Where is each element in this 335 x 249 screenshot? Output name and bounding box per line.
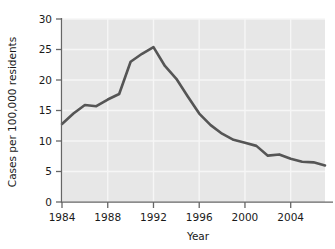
chart-figure: 051015202530 198419881992199620002004 Ca… (0, 0, 335, 249)
line-chart: 051015202530 198419881992199620002004 Ca… (0, 0, 335, 249)
y-tick-label: 15 (39, 104, 52, 116)
y-tick-label: 5 (45, 165, 52, 177)
x-tick-label: 2000 (232, 211, 259, 223)
y-tick-label: 20 (39, 74, 52, 86)
x-tick-label: 2004 (277, 211, 304, 223)
y-tick-label: 25 (39, 43, 52, 55)
x-axis-title: Year (186, 230, 210, 242)
x-tick-label: 1992 (140, 211, 167, 223)
y-axis-title: Cases per 100,000 residents (6, 37, 18, 187)
y-tick-label: 0 (45, 196, 52, 208)
x-tick-label: 1984 (49, 211, 76, 223)
x-tick-label: 1996 (186, 211, 213, 223)
x-tick-label: 1988 (94, 211, 121, 223)
y-tick-label: 30 (39, 13, 52, 25)
y-tick-label: 10 (39, 135, 52, 147)
